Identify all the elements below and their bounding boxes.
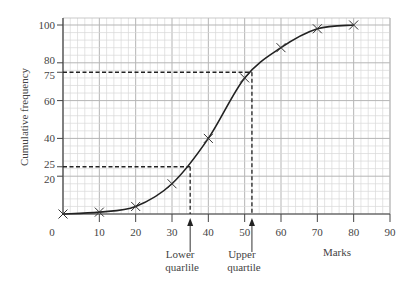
svg-text:Lower: Lower [166, 248, 195, 260]
x-tick-label: 10 [94, 226, 106, 238]
arrow-up-icon [187, 218, 193, 252]
y-tick-label: 40 [44, 132, 56, 144]
grid [63, 18, 390, 214]
x-axis-title: Marks [323, 246, 351, 258]
y-tick-label: 75 [44, 69, 56, 81]
x-tick-label: 90 [385, 226, 397, 238]
x-tick-label: 30 [167, 226, 179, 238]
y-axis-title: Cumulative frequency [18, 67, 30, 166]
svg-text:quartile: quartile [227, 261, 261, 273]
x-tick-label: 20 [130, 226, 142, 238]
y-tick-label: 100 [39, 19, 56, 31]
svg-text:Upper: Upper [228, 248, 256, 260]
y-tick-label: 80 [44, 54, 56, 66]
cumulative-frequency-chart: 0102030405060708090 202540607580100 Lowe… [0, 0, 415, 286]
svg-text:quarlile: quarlile [165, 261, 199, 273]
x-tick-label: 50 [239, 226, 251, 238]
x-tick-label: 60 [276, 226, 288, 238]
x-tick-label: 70 [312, 226, 324, 238]
y-axis-ticks: 202540607580100 [39, 19, 64, 185]
x-axis-ticks: 0102030405060708090 [49, 214, 396, 238]
x-tick-label: 40 [203, 226, 215, 238]
y-tick-label: 20 [44, 173, 56, 185]
x-tick-label: 0 [49, 226, 55, 238]
y-tick-label: 25 [44, 158, 56, 170]
y-tick-label: 60 [44, 95, 56, 107]
x-tick-label: 80 [348, 226, 360, 238]
